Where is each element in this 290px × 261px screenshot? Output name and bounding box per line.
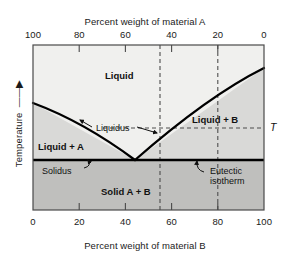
region-label-liquid: Liquid	[105, 70, 134, 81]
annotation-label-temperature-T: T	[270, 121, 276, 133]
annotation-label-liquidus: Liquidus	[96, 123, 130, 133]
phase-diagram-plot	[0, 0, 290, 261]
annotation-label-eutectic-isotherm-line2: isotherm	[210, 176, 245, 186]
annotation-label-solidus: Solidus	[42, 166, 72, 176]
phase-diagram-figure: Percent weight of material A Percent wei…	[0, 0, 290, 261]
region-label-liquid-plus-a: Liquid + A	[38, 141, 84, 152]
annotation-label-eutectic-isotherm-line1: Eutectic	[210, 166, 242, 176]
region-label-solid-a-b: Solid A + B	[101, 186, 151, 197]
region-label-liquid-plus-b: Liquid + B	[192, 114, 238, 125]
